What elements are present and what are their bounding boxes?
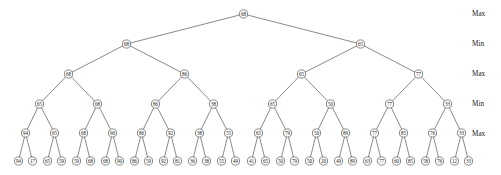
tree-leaf-node: 65: [261, 157, 269, 165]
tree-edge: [376, 108, 387, 130]
node-value-label: 49: [336, 158, 342, 164]
tree-edge: [259, 137, 264, 157]
tree-edge: [77, 137, 82, 157]
node-value-label: 68: [88, 158, 94, 164]
tree-edge: [433, 137, 438, 157]
tree-node: 50: [312, 129, 320, 137]
tree-edge: [157, 108, 168, 130]
node-value-label: 94: [16, 158, 22, 164]
tree-edge: [318, 108, 328, 130]
tree-edge: [200, 137, 205, 157]
tree-node: 55: [224, 129, 232, 137]
tree-node: 33: [457, 129, 465, 137]
tree-node: 68: [64, 70, 72, 78]
node-value-label: 92: [168, 130, 174, 136]
tree-leaf-node: 94: [14, 157, 22, 165]
tree-leaf-node: 41: [247, 157, 255, 165]
tree-edge: [171, 137, 176, 157]
node-value-label: 59: [59, 158, 65, 164]
node-value-label: 68: [81, 130, 87, 136]
node-value-label: 33: [466, 158, 472, 164]
tree-leaf-node: 20: [319, 157, 327, 165]
tree-node: 50: [326, 100, 334, 108]
tree-nodes-layer: 6868656886657765688638655077339465689086…: [14, 10, 472, 165]
tree-node: 68: [239, 10, 247, 18]
tree-node: 38: [209, 100, 217, 108]
tree-edge: [391, 108, 401, 130]
tree-leaf-node: 55: [217, 157, 225, 165]
node-value-label: 12: [452, 158, 458, 164]
tree-edge: [434, 108, 445, 130]
tree-edge: [274, 108, 285, 130]
tree-edge: [71, 77, 94, 101]
node-value-label: 86: [139, 130, 145, 136]
tree-edge: [281, 137, 286, 157]
tree-leaf-node: 85: [406, 157, 414, 165]
tree-leaf-node: 89: [348, 157, 356, 165]
game-tree-diagram: 6868656886657765688638655077339465689086…: [0, 0, 501, 175]
tree-edge: [113, 137, 118, 157]
tree-edge: [364, 46, 415, 72]
node-value-label: 65: [45, 158, 51, 164]
tree-edge: [84, 137, 89, 157]
tree-edge: [368, 137, 373, 157]
tree-leaf-node: 50: [276, 157, 284, 165]
tree-edge: [201, 108, 211, 130]
node-value-label: 86: [132, 158, 138, 164]
node-value-label: 63: [365, 158, 371, 164]
tree-edge: [41, 108, 52, 130]
tree-node: 65: [35, 100, 43, 108]
node-value-label: 76: [430, 130, 436, 136]
tree-svg-canvas: 6868656886657765688638655077339465689086…: [0, 0, 501, 175]
tree-node: 86: [137, 129, 145, 137]
tree-edge: [260, 108, 270, 130]
tree-leaf-node: 76: [435, 157, 443, 165]
tree-node: 86: [151, 100, 159, 108]
tree-node: 68: [79, 129, 87, 137]
tree-leaf-node: 49: [334, 157, 342, 165]
tree-leaf-node: 38: [202, 157, 210, 165]
node-value-label: 94: [23, 130, 29, 136]
tree-edge: [310, 137, 315, 157]
tree-leaf-node: 63: [363, 157, 371, 165]
tree-leaf-node: 17: [28, 157, 36, 165]
tree-edge: [455, 137, 460, 157]
node-value-label: 17: [30, 158, 36, 164]
tree-edge: [130, 46, 181, 72]
tree-edge: [55, 137, 60, 157]
node-value-label: 50: [314, 130, 320, 136]
tree-leaf-node: 50: [305, 157, 313, 165]
node-value-label: 77: [372, 130, 378, 136]
tree-node: 65: [356, 40, 364, 48]
tree-leaf-node: 65: [43, 157, 51, 165]
level-role-label: Min: [472, 100, 484, 108]
tree-edge: [106, 137, 111, 157]
tree-edge: [72, 46, 123, 72]
node-value-label: 77: [379, 158, 385, 164]
tree-edge: [421, 77, 444, 101]
tree-edge: [26, 137, 31, 157]
node-value-label: 65: [37, 101, 43, 107]
tree-node: 68: [93, 100, 101, 108]
node-value-label: 68: [95, 101, 101, 107]
tree-node: 92: [166, 129, 174, 137]
node-value-label: 55: [226, 130, 232, 136]
tree-leaf-node: 59: [144, 157, 152, 165]
tree-leaf-node: 59: [57, 157, 65, 165]
tree-edge: [305, 46, 357, 72]
tree-edge: [19, 137, 24, 157]
tree-node: 90: [108, 129, 116, 137]
node-value-label: 86: [182, 71, 188, 77]
tree-node: 68: [122, 40, 130, 48]
tree-edge: [332, 108, 343, 130]
level-role-label: Max: [472, 10, 486, 18]
tree-edge: [164, 137, 169, 157]
tree-leaf-node: 49: [231, 157, 239, 165]
node-value-label: 89: [350, 158, 356, 164]
node-value-label: 33: [459, 130, 465, 136]
node-value-label: 65: [263, 158, 269, 164]
tree-edge: [247, 15, 356, 43]
tree-node: 85: [399, 129, 407, 137]
tree-edge: [130, 15, 239, 43]
level-role-label: Max: [472, 70, 486, 78]
